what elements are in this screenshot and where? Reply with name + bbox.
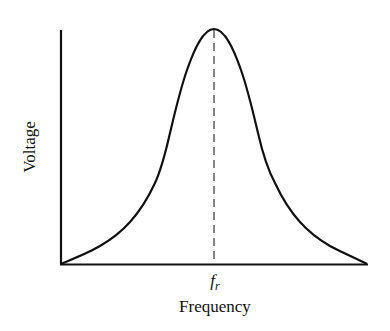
resonant-frequency-label: fr xyxy=(210,271,219,294)
resonance-diagram: Voltage fr Frequency xyxy=(0,0,390,331)
y-axis-label: Voltage xyxy=(20,121,40,173)
plot-area xyxy=(0,0,390,331)
x-axis-label: Frequency xyxy=(179,297,251,317)
marker-subscript: r xyxy=(215,279,220,293)
